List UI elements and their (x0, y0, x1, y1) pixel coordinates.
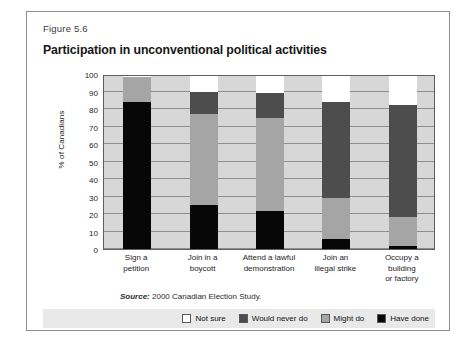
legend-label: Have done (390, 314, 429, 323)
bar-segment-not-sure[interactable] (389, 75, 417, 105)
legend-swatch-have-done-icon (377, 314, 386, 323)
bar-segment-have-done[interactable] (389, 246, 417, 250)
bar-segment-might-do[interactable] (256, 118, 284, 211)
bar-segment-have-done[interactable] (123, 102, 151, 249)
bar-stack[interactable] (190, 76, 218, 249)
y-axis-tick-label: 70 (58, 123, 98, 132)
bar-stack[interactable] (256, 76, 284, 249)
y-axis-tick-label: 50 (58, 158, 98, 167)
bar-segment-not-sure[interactable] (123, 75, 151, 77)
x-axis-label: Occupy abuildingor factory (359, 253, 445, 285)
figure-title: Participation in unconventional politica… (43, 43, 327, 57)
bar-segment-might-do[interactable] (322, 198, 350, 238)
legend-label: Not sure (195, 314, 225, 323)
bar-stack[interactable] (389, 76, 417, 249)
legend-swatch-might-do-icon (321, 314, 330, 323)
source-text: 2000 Canadian Election Study. (150, 292, 261, 301)
x-axis-label-line: or factory (359, 274, 445, 285)
bar-segment-might-do[interactable] (389, 217, 417, 246)
legend-item[interactable]: Might do (321, 314, 365, 323)
bar-stack[interactable] (123, 76, 151, 249)
bar-segment-might-do[interactable] (190, 114, 218, 205)
y-axis-tick-label: 0 (58, 246, 98, 255)
y-axis-tick-label: 80 (58, 106, 98, 115)
legend-label: Might do (334, 314, 365, 323)
chart-plot-wrapper: % of Canadians 0102030405060708090100 Si… (80, 75, 435, 257)
bar-segment-might-do[interactable] (123, 77, 151, 102)
bar-segment-have-done[interactable] (256, 211, 284, 250)
bar-stack[interactable] (322, 76, 350, 249)
y-axis-tick-label: 90 (58, 88, 98, 97)
bar-segment-would-never-do[interactable] (322, 102, 350, 198)
bar-segment-have-done[interactable] (190, 205, 218, 249)
y-axis-tick-label: 30 (58, 193, 98, 202)
legend-label: Would never do (252, 314, 308, 323)
y-axis-tick-label: 100 (58, 71, 98, 80)
bar-segment-not-sure[interactable] (256, 75, 284, 93)
source-note: Source: 2000 Canadian Election Study. (120, 292, 261, 301)
y-axis-tick-label: 10 (58, 228, 98, 237)
x-axis-label-line: Occupy a (359, 253, 445, 264)
legend-item[interactable]: Would never do (239, 314, 308, 323)
bar-segment-would-never-do[interactable] (256, 93, 284, 118)
legend-swatch-not-sure-icon (182, 314, 191, 323)
legend-swatch-would-never-do-icon (239, 314, 248, 323)
bar-segment-have-done[interactable] (322, 239, 350, 250)
chart-legend: Not sureWould never doMight doHave done (43, 309, 435, 328)
source-prefix: Source: (120, 292, 150, 301)
y-axis-tick-label: 60 (58, 141, 98, 150)
bar-segment-would-never-do[interactable] (190, 92, 218, 115)
bar-segment-not-sure[interactable] (322, 75, 350, 102)
legend-item[interactable]: Not sure (182, 314, 225, 323)
chart-plot-area (103, 75, 435, 250)
legend-item[interactable]: Have done (377, 314, 429, 323)
figure-number: Figure 5.6 (43, 23, 88, 34)
bar-segment-not-sure[interactable] (190, 75, 218, 92)
figure-container: Figure 5.6 Participation in unconvention… (26, 11, 450, 331)
y-axis-tick-label: 20 (58, 211, 98, 220)
bar-segment-would-never-do[interactable] (389, 105, 417, 217)
y-axis-tick-label: 40 (58, 176, 98, 185)
x-axis-label-line: building (359, 264, 445, 275)
